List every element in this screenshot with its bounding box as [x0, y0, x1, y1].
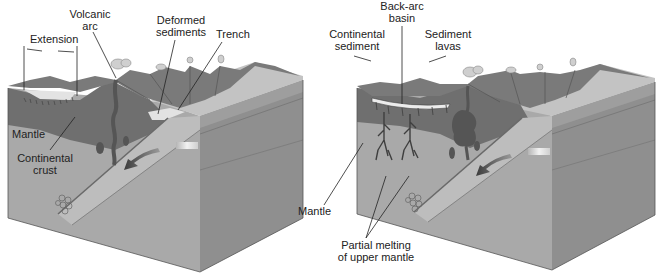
- left-magma-blob-1: [96, 142, 104, 154]
- label-sediment-lavas-line1: Sediment: [425, 28, 471, 40]
- label-back-arc-basin-line2: basin: [389, 12, 415, 24]
- label-continental-crust-line1: Continental: [17, 152, 73, 164]
- label-partial-melting-line2: of upper mantle: [338, 251, 414, 263]
- right-magma-conduit: [467, 86, 468, 112]
- subduction-diagram: Extension Volcanic arc Deformed sediment…: [0, 0, 661, 275]
- extension-arrow-left: [27, 49, 42, 51]
- label-sediment-lavas-line2: lavas: [435, 40, 461, 52]
- label-back-arc-basin-line1: Back-arc: [380, 0, 424, 12]
- right-magma-blob-2: [474, 141, 480, 151]
- label-partial-melting-line1: Partial melting: [341, 239, 411, 251]
- label-mantle-left: Mantle: [12, 128, 45, 140]
- sediment-lavas-leader: [429, 56, 446, 62]
- right-magma-feeder: [466, 146, 468, 160]
- label-volcanic-arc-line2: arc: [82, 20, 98, 32]
- left-slab-glow: [176, 142, 198, 149]
- label-volcanic-arc-line1: Volcanic: [70, 8, 111, 20]
- left-magma-blob-2: [123, 136, 129, 146]
- label-mantle-right: Mantle: [298, 205, 331, 217]
- right-magma-chamber: [452, 110, 476, 146]
- label-trench: Trench: [216, 28, 250, 40]
- continental-sediment-leader: [354, 56, 371, 61]
- label-deformed-sediments-line2: sediments: [156, 26, 207, 38]
- label-extension: Extension: [30, 33, 78, 45]
- right-magma-blob-1: [449, 147, 455, 159]
- extension-arrow-right: [58, 51, 74, 52]
- volcanic-arc-leader: [93, 32, 116, 78]
- label-deformed-sediments-line1: Deformed: [157, 14, 205, 26]
- label-continental-sediment-line1: Continental: [329, 28, 385, 40]
- right-slab-glow: [528, 148, 550, 155]
- label-continental-sediment-line2: sediment: [335, 40, 380, 52]
- label-continental-crust-line2: crust: [33, 164, 57, 176]
